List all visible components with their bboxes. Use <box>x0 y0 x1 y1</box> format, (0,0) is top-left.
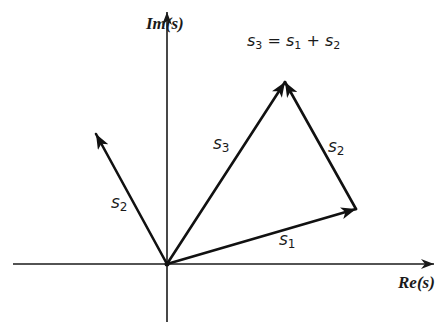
label-s3: s3 <box>213 133 230 155</box>
label-s2-origin: s2 <box>111 192 128 214</box>
label-s1: s1 <box>279 229 296 251</box>
label-s2-translated: s2 <box>328 136 345 158</box>
vector-s1 <box>167 209 356 264</box>
complex-plane-diagram: Im(s) Re(s) s3 = s1 + s2 s1 s2 s3 s2 <box>0 0 445 328</box>
real-axis-label: Re(s) <box>398 273 435 293</box>
vector-s2-translated <box>285 82 356 209</box>
diagram-svg <box>0 0 445 328</box>
vector-sum-equation: s3 = s1 + s2 <box>247 31 340 52</box>
vector-s3 <box>167 82 285 264</box>
origin-point <box>165 262 170 267</box>
eq-plus: + <box>306 31 319 50</box>
eq-lhs: s3 <box>247 31 262 50</box>
eq-term-1: s1 <box>286 31 301 50</box>
eq-term-2: s2 <box>325 31 340 50</box>
vector-s2-from-origin <box>96 134 167 264</box>
eq-equals: = <box>267 31 280 50</box>
imaginary-axis-label: Im(s) <box>146 14 184 34</box>
